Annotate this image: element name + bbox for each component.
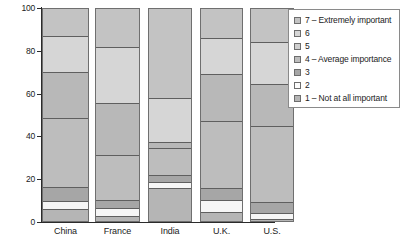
legend-item[interactable]: 4 – Average importance bbox=[294, 53, 399, 66]
bar-segment bbox=[201, 75, 242, 122]
x-axis-label: U.K. bbox=[194, 226, 249, 236]
y-tick-label: 20 bbox=[9, 175, 35, 184]
bar-segment bbox=[251, 85, 293, 127]
y-tick-mark bbox=[37, 222, 41, 223]
x-axis-label: France bbox=[89, 226, 146, 236]
bar-segment bbox=[251, 203, 293, 215]
bar-segment bbox=[43, 9, 88, 37]
bar-france bbox=[95, 8, 140, 222]
bar-segment bbox=[201, 201, 242, 214]
bar-segment bbox=[149, 176, 191, 183]
legend-item[interactable]: 5 bbox=[294, 40, 399, 53]
bar-segment bbox=[201, 122, 242, 188]
legend-swatch-icon bbox=[294, 82, 301, 89]
y-tick-mark bbox=[37, 51, 41, 52]
bar-segment bbox=[96, 217, 139, 222]
bar-segment bbox=[149, 9, 191, 99]
legend-item[interactable]: 1 – Not at all important bbox=[294, 92, 399, 105]
bar-segment bbox=[43, 119, 88, 187]
legend-label: 7 – Extremely important bbox=[305, 16, 391, 25]
legend-label: 4 – Average importance bbox=[305, 55, 391, 64]
legend-label: 5 bbox=[305, 42, 310, 51]
bar-segment bbox=[43, 73, 88, 119]
bar-segment bbox=[96, 104, 139, 155]
legend-swatch-icon bbox=[294, 30, 301, 37]
x-axis-line bbox=[41, 222, 275, 223]
y-tick-mark bbox=[37, 179, 41, 180]
bar-segment bbox=[149, 99, 191, 143]
legend-item[interactable]: 3 bbox=[294, 66, 399, 79]
bar-segment bbox=[201, 189, 242, 201]
bar-segment bbox=[201, 213, 242, 222]
x-axis-label: India bbox=[142, 226, 198, 236]
legend-swatch-icon bbox=[294, 17, 301, 24]
legend-label: 6 bbox=[305, 29, 310, 38]
bar-segment bbox=[96, 9, 139, 48]
y-tick-label: 0 bbox=[9, 218, 35, 227]
legend-swatch-icon bbox=[294, 56, 301, 63]
y-tick-mark bbox=[37, 8, 41, 9]
bar-segment bbox=[96, 48, 139, 105]
y-tick-label: 100 bbox=[9, 4, 35, 13]
legend-item[interactable]: 6 bbox=[294, 27, 399, 40]
legend-swatch-icon bbox=[294, 69, 301, 76]
x-axis-label: China bbox=[36, 226, 95, 236]
bar-segment bbox=[43, 37, 88, 73]
bar-segment bbox=[201, 9, 242, 39]
y-tick-mark bbox=[37, 136, 41, 137]
bar-segment bbox=[96, 209, 139, 216]
legend: 7 – Extremely important654 – Average imp… bbox=[288, 9, 400, 108]
x-axis-label: U.S. bbox=[244, 226, 300, 236]
bar-segment bbox=[43, 202, 88, 211]
y-tick-label: 60 bbox=[9, 90, 35, 99]
legend-item[interactable]: 2 bbox=[294, 79, 399, 92]
legend-item[interactable]: 7 – Extremely important bbox=[294, 14, 399, 27]
bar-uk bbox=[200, 8, 243, 222]
bar-segment bbox=[251, 9, 293, 43]
bar-segment bbox=[251, 43, 293, 85]
bar-segment bbox=[251, 127, 293, 203]
legend-label: 1 – Not at all important bbox=[305, 94, 387, 103]
bar-segment bbox=[149, 189, 191, 222]
bar-segment bbox=[201, 39, 242, 75]
legend-swatch-icon bbox=[294, 43, 301, 50]
plot-area bbox=[42, 8, 268, 222]
stacked-bar-chart: 100806040200 ChinaFranceIndiaU.K.U.S. 7 … bbox=[0, 0, 403, 252]
legend-swatch-icon bbox=[294, 95, 301, 102]
legend-label: 3 bbox=[305, 68, 310, 77]
bar-china bbox=[42, 8, 89, 222]
bar-india bbox=[148, 8, 192, 222]
y-tick-label: 40 bbox=[9, 132, 35, 141]
legend-label: 2 bbox=[305, 81, 310, 90]
bar-segment bbox=[43, 210, 88, 222]
bar-segment bbox=[96, 201, 139, 210]
bar-segment bbox=[251, 220, 293, 222]
bar-segment bbox=[149, 149, 191, 176]
bar-segment bbox=[43, 188, 88, 202]
bar-segment bbox=[96, 156, 139, 201]
y-tick-mark bbox=[37, 94, 41, 95]
y-tick-label: 80 bbox=[9, 47, 35, 56]
